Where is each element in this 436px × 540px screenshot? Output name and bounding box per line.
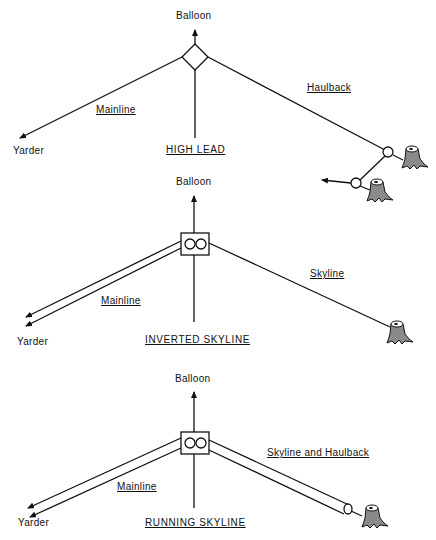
stump-icon xyxy=(362,505,388,528)
mainline-line xyxy=(20,57,182,138)
haulback-line xyxy=(208,57,385,150)
high-lead-title: HIGH LEAD xyxy=(166,144,225,155)
block-icon xyxy=(351,178,361,188)
balloon-label: Balloon xyxy=(176,176,211,187)
stump-icon xyxy=(387,321,413,344)
inverted-skyline-title: INVERTED SKYLINE xyxy=(145,334,250,345)
rigging-diagram-canvas xyxy=(0,0,436,540)
skyline-haulback-label: Skyline and Haulback xyxy=(267,447,369,458)
stump-icon xyxy=(402,146,428,169)
haulback-label: Haulback xyxy=(307,82,351,93)
yarder-label: Yarder xyxy=(13,145,44,156)
block-icon xyxy=(383,147,393,157)
running-skyline-title: RUNNING SKYLINE xyxy=(145,517,246,528)
balloon-label: Balloon xyxy=(176,10,211,21)
balloon-label: Balloon xyxy=(175,373,210,384)
high-lead-diagram xyxy=(20,30,428,202)
skyline-label: Skyline xyxy=(310,268,344,279)
stump-icon xyxy=(367,179,393,202)
yarder-label: Yarder xyxy=(18,517,49,528)
yarder-label: Yarder xyxy=(17,336,48,347)
mainline-label: Mainline xyxy=(101,295,141,306)
mainline-label: Mainline xyxy=(117,481,157,492)
skyline-line xyxy=(209,243,390,327)
carriage-diamond-icon xyxy=(182,44,208,70)
mainline-label: Mainline xyxy=(96,104,136,115)
running-skyline-diagram xyxy=(28,392,388,528)
inverted-skyline-diagram xyxy=(26,196,413,344)
